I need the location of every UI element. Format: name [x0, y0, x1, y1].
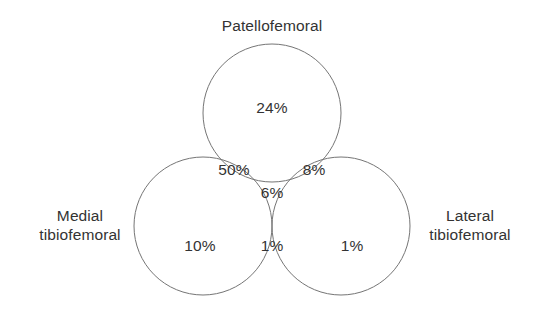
set-label-patellofemoral: Patellofemoral: [222, 16, 322, 35]
region-value-all-three: 6%: [261, 184, 284, 201]
region-value-medial-only: 10%: [184, 237, 215, 254]
region-value-patellofemoral-lateral: 8%: [303, 161, 326, 178]
region-value-medial-lateral: 1%: [261, 237, 284, 254]
venn-circles-svg: [0, 0, 544, 331]
region-value-patellofemoral-only: 24%: [256, 99, 287, 116]
set-label-lateral-tibiofemoral: Lateral tibiofemoral: [429, 206, 510, 244]
circle-medial-tibiofemoral: [134, 157, 272, 295]
venn-diagram-figure: Patellofemoral Medial tibiofemoral Later…: [0, 0, 544, 331]
region-value-patellofemoral-medial: 50%: [218, 161, 249, 178]
circle-lateral-tibiofemoral: [272, 157, 410, 295]
set-label-medial-tibiofemoral: Medial tibiofemoral: [39, 206, 120, 244]
region-value-lateral-only: 1%: [341, 237, 364, 254]
